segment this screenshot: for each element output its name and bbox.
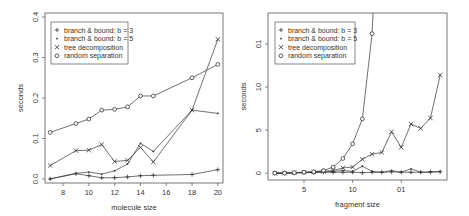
legend: branch & bound: b = 3branch & bound: b =… xyxy=(51,22,133,64)
x-tick-label: 01 xyxy=(397,185,405,194)
legend-entry: branch & bound: b = 3 xyxy=(64,27,133,34)
y-tick-label: 0.1 xyxy=(31,133,40,143)
y-axis-label: seconds xyxy=(16,84,25,112)
legend-entry: tree decomposition xyxy=(64,44,123,52)
y-tick-label: 0.4 xyxy=(31,12,40,22)
y-tick-label: 01 xyxy=(254,40,263,48)
x-axis: 51001fragment size xyxy=(302,180,406,209)
x-tick-label: 20 xyxy=(214,188,222,197)
y-tick-label: 5 xyxy=(254,128,263,132)
series-branch-bound-b-5 xyxy=(49,109,218,180)
y-axis: 051001seconds xyxy=(239,40,268,175)
x-tick-label: 8 xyxy=(61,188,65,197)
legend-entry: branch & bound: b = 5 xyxy=(288,35,357,42)
series-random-separation xyxy=(48,63,219,135)
x-tick-label: 5 xyxy=(302,185,306,194)
x-tick-label: 12 xyxy=(110,188,118,197)
legend: branch & bound: b = 3branch & bound: b =… xyxy=(275,22,357,64)
series-branch-bound-b-3 xyxy=(48,167,220,181)
figure: 8101214161820molecule size0.00.10.20.30.… xyxy=(0,0,469,216)
x-axis: 8101214161820molecule size xyxy=(61,183,222,212)
y-tick-label: 0.0 xyxy=(31,174,40,184)
y-tick-label: 10 xyxy=(254,83,263,91)
legend-entry: random separation xyxy=(64,52,122,60)
y-tick-label: 0.3 xyxy=(31,52,40,62)
y-axis: 0.00.10.20.30.4seconds xyxy=(16,12,45,184)
y-tick-label: 0 xyxy=(254,171,263,175)
legend-entry: branch & bound: b = 3 xyxy=(288,27,357,34)
x-tick-label: 16 xyxy=(162,188,170,197)
x-tick-label: 10 xyxy=(85,188,93,197)
x-axis-label: fragment size xyxy=(335,200,380,209)
y-tick-label: 0.2 xyxy=(31,93,40,103)
legend-entry: tree decomposition xyxy=(288,44,347,52)
plot-right: 51001fragment size051001secondsbranch & … xyxy=(239,0,447,209)
x-tick-label: 18 xyxy=(188,188,196,197)
x-tick-label: 10 xyxy=(348,185,356,194)
plot-left: 8101214161820molecule size0.00.10.20.30.… xyxy=(16,12,223,212)
x-tick-label: 14 xyxy=(136,188,144,197)
legend-entry: branch & bound: b = 5 xyxy=(64,35,133,42)
y-axis-label: seconds xyxy=(239,82,248,110)
legend-entry: random separation xyxy=(288,52,346,60)
x-axis-label: molecule size xyxy=(111,203,156,212)
series-tree-decomposition xyxy=(273,73,443,176)
